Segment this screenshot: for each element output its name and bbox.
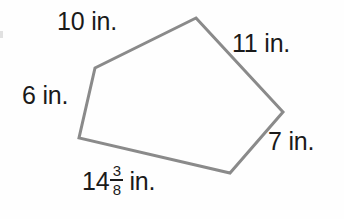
mixed-number-unit: in. bbox=[129, 169, 155, 194]
fraction-numerator: 3 bbox=[112, 163, 122, 178]
left-edge-artifact bbox=[0, 31, 3, 38]
geometry-figure-pentagon: 10 in. 11 in. 7 in. 6 in. 14 3 8 in. bbox=[0, 0, 344, 219]
side-label-bottom: 14 3 8 in. bbox=[82, 164, 155, 199]
side-label-lower-right: 7 in. bbox=[268, 129, 314, 154]
mixed-number-whole-part: 14 bbox=[82, 169, 109, 194]
side-label-left: 6 in. bbox=[22, 83, 68, 108]
fraction: 3 8 bbox=[110, 163, 123, 198]
side-label-top: 10 in. bbox=[57, 9, 117, 34]
pentagon-shape-svg bbox=[0, 0, 344, 219]
side-label-upper-right: 11 in. bbox=[232, 31, 290, 56]
fraction-denominator: 8 bbox=[112, 182, 122, 197]
mixed-number-value: 14 3 8 in. bbox=[82, 164, 155, 199]
